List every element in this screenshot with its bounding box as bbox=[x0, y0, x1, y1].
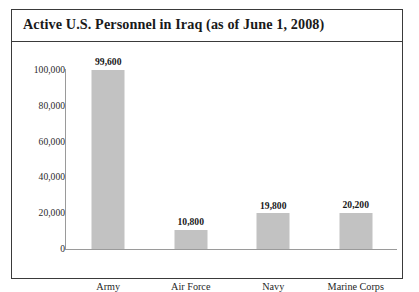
page-title: Active U.S. Personnel in Iraq (as of Jun… bbox=[23, 16, 324, 33]
x-axis-tick-label: Army bbox=[96, 281, 120, 292]
plot-area: 100,000 80,000 60,000 40,000 20,000 0 99… bbox=[12, 42, 402, 278]
x-axis-category-army: Army bbox=[67, 69, 150, 249]
x-axis-tick-label: Navy bbox=[262, 281, 284, 292]
x-axis-category-navy: Navy bbox=[232, 69, 315, 249]
y-axis-tick-label: 60,000 bbox=[7, 135, 65, 146]
x-axis-category-air-force: Air Force bbox=[150, 69, 233, 249]
y-axis: 100,000 80,000 60,000 40,000 20,000 0 bbox=[12, 42, 65, 278]
x-axis-tick-label: Air Force bbox=[171, 281, 210, 292]
y-axis-tick-label: 0 bbox=[7, 243, 65, 254]
x-axis: Army Air Force Navy Marine Corps bbox=[67, 69, 397, 249]
y-axis-tick-label: 20,000 bbox=[7, 207, 65, 218]
y-axis-tick-label: 80,000 bbox=[7, 99, 65, 110]
x-axis-category-marine-corps: Marine Corps bbox=[315, 69, 398, 249]
bar-value-label: 99,600 bbox=[95, 56, 121, 67]
y-axis-tick-label: 100,000 bbox=[7, 64, 65, 75]
title-bar: Active U.S. Personnel in Iraq (as of Jun… bbox=[12, 10, 402, 42]
chart-figure: Active U.S. Personnel in Iraq (as of Jun… bbox=[11, 9, 403, 279]
x-axis-tick-label: Marine Corps bbox=[328, 281, 384, 292]
y-axis-tick-label: 40,000 bbox=[7, 171, 65, 182]
